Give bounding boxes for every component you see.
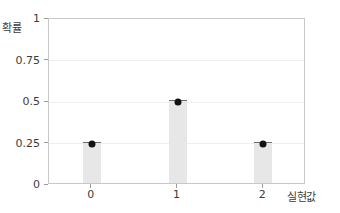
bar <box>83 142 101 184</box>
data-point-marker <box>260 140 267 147</box>
y-tick-label: 1 <box>33 12 40 25</box>
y-axis-title: 확률 <box>2 19 21 35</box>
gridline <box>49 60 304 61</box>
x-tick-label: 2 <box>259 188 266 201</box>
probability-bar-chart: 확률 실현값 0 0.25 0.5 0.75 1 0 1 2 <box>0 0 340 213</box>
y-tick-label: 0.5 <box>23 95 41 108</box>
y-tick-label: 0 <box>33 178 40 191</box>
y-tick-label: 0.25 <box>16 136 41 149</box>
bar <box>254 142 272 184</box>
y-tick-label: 0.75 <box>16 53 41 66</box>
data-point-marker <box>88 140 95 147</box>
plot-area <box>48 18 305 184</box>
x-axis-title: 실현값 <box>287 188 316 204</box>
x-tick-label: 1 <box>173 188 180 201</box>
data-point-marker <box>174 99 181 106</box>
x-tick-label: 0 <box>87 188 94 201</box>
bar <box>169 100 187 183</box>
